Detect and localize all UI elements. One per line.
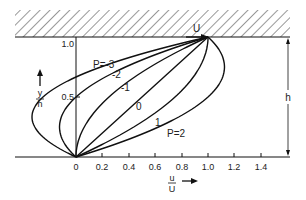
couette-diagram: U 0 0.2 0.4 0.6 0.8 1.0 1.2 1.4 1.0 0.5 … bbox=[0, 0, 306, 200]
profile-curve-p2 bbox=[76, 37, 225, 157]
up-arrow-head-icon bbox=[37, 69, 43, 76]
label-p-1: 1 bbox=[155, 117, 161, 128]
x-tick-0.6: 0.6 bbox=[149, 162, 162, 172]
dimension-arrow-down-icon bbox=[286, 150, 290, 156]
plate-hatch bbox=[15, 10, 290, 37]
x-tick-1.0: 1.0 bbox=[202, 162, 215, 172]
y-label-numerator: y bbox=[38, 88, 43, 98]
x-label-denominator: U bbox=[169, 184, 176, 194]
x-axis-label: u U bbox=[168, 173, 198, 194]
profile-curve-p0 bbox=[76, 37, 208, 157]
x-tick-labels: 0 0.2 0.4 0.6 0.8 1.0 1.2 1.4 bbox=[73, 162, 267, 172]
x-tick-0: 0 bbox=[73, 162, 78, 172]
label-p-minus2: -2 bbox=[112, 69, 121, 80]
height-label: h bbox=[285, 92, 291, 103]
x-label-numerator: u bbox=[169, 173, 174, 183]
label-p-2: P=2 bbox=[167, 128, 186, 139]
profile-curve-p-2 bbox=[60, 37, 209, 157]
x-tick-1.2: 1.2 bbox=[228, 162, 241, 172]
x-tick-0.4: 0.4 bbox=[123, 162, 136, 172]
y-tick-label-1.0: 1.0 bbox=[61, 39, 74, 49]
plate-velocity-label: U bbox=[193, 23, 200, 34]
label-p-minus1: -1 bbox=[121, 82, 130, 93]
moving-plate: U bbox=[15, 10, 290, 37]
profile-curve-p-3 bbox=[32, 37, 208, 157]
dimension-arrow-up-icon bbox=[286, 38, 290, 44]
height-dimension: h bbox=[282, 38, 294, 156]
x-tick-0.2: 0.2 bbox=[96, 162, 109, 172]
y-tick-labels: 1.0 0.5 bbox=[61, 39, 74, 102]
x-tick-0.8: 0.8 bbox=[176, 162, 189, 172]
right-arrow-head-icon bbox=[191, 178, 198, 184]
x-tick-1.4: 1.4 bbox=[255, 162, 268, 172]
label-p-0: 0 bbox=[136, 101, 142, 112]
